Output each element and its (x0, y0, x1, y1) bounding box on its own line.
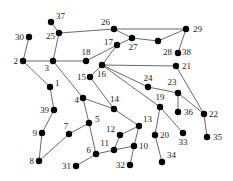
node-label-36: 36 (184, 107, 194, 117)
node-label-32: 32 (116, 160, 125, 170)
node-7 (66, 131, 72, 137)
node-16 (99, 62, 105, 68)
node-label-4: 4 (75, 95, 80, 105)
node-label-16: 16 (97, 69, 107, 79)
node-label-9: 9 (33, 128, 38, 138)
node-label-17: 17 (104, 37, 114, 47)
edge-9-8 (39, 133, 42, 161)
node-label-13: 13 (143, 114, 153, 124)
node-label-19: 19 (156, 92, 166, 102)
node-9 (39, 130, 45, 136)
node-label-30: 30 (15, 32, 25, 42)
edge-15-14 (90, 77, 114, 109)
node-label-21: 21 (182, 61, 191, 71)
node-6 (93, 151, 99, 157)
node-label-31: 31 (62, 161, 71, 171)
node-12 (117, 132, 123, 138)
edge-22-35 (204, 114, 207, 137)
node-label-26: 26 (101, 17, 111, 27)
node-22 (201, 111, 207, 117)
node-label-10: 10 (139, 141, 149, 151)
node-label-15: 15 (77, 72, 87, 82)
node-20 (152, 132, 158, 138)
node-label-38: 38 (182, 47, 192, 57)
node-label-24: 24 (144, 73, 154, 83)
edge-28-29 (158, 29, 186, 41)
node-label-12: 12 (106, 124, 115, 134)
node-label-20: 20 (160, 130, 170, 140)
node-23 (175, 90, 181, 96)
node-label-3: 3 (45, 63, 50, 73)
node-label-37: 37 (56, 11, 66, 21)
node-13 (136, 123, 142, 129)
node-39 (51, 107, 57, 113)
edge-6-31 (76, 154, 96, 166)
node-11 (111, 147, 117, 153)
edge-4-5 (83, 98, 89, 123)
edge-27-28 (132, 38, 158, 41)
node-10 (131, 143, 137, 149)
node-14 (111, 106, 117, 112)
edge-25-26 (59, 29, 114, 33)
node-label-29: 29 (193, 24, 203, 34)
node-label-39: 39 (40, 105, 50, 115)
node-label-11: 11 (100, 138, 109, 148)
node-label-14: 14 (110, 94, 120, 104)
node-18 (83, 58, 89, 64)
node-3 (50, 58, 56, 64)
edge-14-13 (114, 109, 139, 126)
node-27 (129, 35, 135, 41)
node-15 (87, 74, 93, 80)
node-25 (56, 30, 62, 36)
node-21 (173, 63, 179, 69)
network-graph: 1234567891011121314151617181920212223242… (0, 0, 233, 181)
edge-16-24 (102, 65, 148, 87)
node-19 (157, 104, 163, 110)
node-34 (159, 159, 165, 165)
node-29 (183, 26, 189, 32)
node-35 (204, 134, 210, 140)
edge-16-21 (102, 65, 176, 66)
edge-1-39 (50, 87, 54, 110)
node-2 (20, 58, 26, 64)
node-32 (127, 162, 133, 168)
node-label-35: 35 (213, 132, 223, 142)
node-label-2: 2 (14, 56, 19, 66)
node-label-23: 23 (168, 77, 178, 87)
node-label-22: 22 (209, 109, 218, 119)
node-31 (73, 163, 79, 169)
node-26 (111, 26, 117, 32)
node-37 (48, 19, 54, 25)
edge-7-5 (69, 123, 89, 134)
node-label-5: 5 (95, 114, 100, 124)
edge-18-17 (86, 45, 117, 61)
node-label-34: 34 (167, 150, 177, 160)
node-label-7: 7 (64, 121, 69, 131)
node-label-33: 33 (179, 137, 189, 147)
node-label-18: 18 (82, 47, 92, 57)
node-4 (80, 95, 86, 101)
node-1 (47, 84, 53, 90)
node-label-6: 6 (87, 145, 92, 155)
node-33 (180, 130, 186, 136)
node-label-25: 25 (46, 31, 56, 41)
node-label-8: 8 (30, 156, 35, 166)
node-label-1: 1 (55, 78, 60, 88)
edge-8-7 (39, 134, 69, 161)
node-17 (114, 42, 120, 48)
node-30 (26, 34, 32, 40)
node-label-27: 27 (129, 42, 139, 52)
node-8 (36, 158, 42, 164)
node-5 (86, 120, 92, 126)
node-36 (175, 109, 181, 115)
edge-17-16 (102, 45, 117, 65)
node-38 (175, 50, 181, 56)
node-label-28: 28 (163, 47, 173, 57)
node-24 (145, 84, 151, 90)
node-28 (155, 38, 161, 44)
graph-labels: 1234567891011121314151617181920212223242… (14, 11, 223, 171)
